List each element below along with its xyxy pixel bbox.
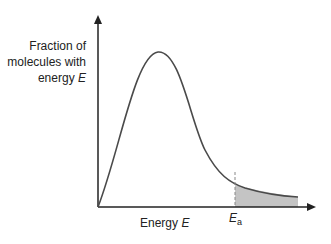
ea-symbol: E <box>229 211 237 225</box>
y-label-line-2: molecules with <box>7 54 86 70</box>
ea-subscript: a <box>237 217 242 227</box>
y-axis-arrow-icon <box>94 15 102 24</box>
y-axis-label: Fraction of molecules with energy E <box>7 38 86 86</box>
y-label-line-1: Fraction of <box>7 38 86 54</box>
activation-energy-label: Ea <box>229 211 242 227</box>
y-label-line-3: energy E <box>7 70 86 86</box>
x-label-text: Energy <box>140 216 178 230</box>
x-label-variable: E <box>181 216 189 230</box>
y-label-text: energy <box>38 71 75 85</box>
y-label-variable: E <box>78 71 86 85</box>
x-axis-label: Energy E <box>140 216 189 230</box>
distribution-plot <box>0 0 331 244</box>
x-axis-arrow-icon <box>307 203 316 211</box>
